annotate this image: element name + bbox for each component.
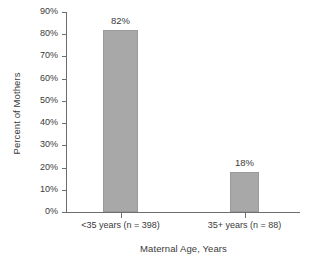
y-axis-tick [62, 145, 67, 146]
y-axis-tick-label: 20% [12, 162, 58, 172]
x-axis-tick [245, 213, 246, 218]
y-axis-tick-label: 0% [12, 206, 58, 216]
y-axis-tick-label: 90% [12, 6, 58, 16]
x-axis-tick-label: 35+ years (n = 88) [208, 220, 282, 230]
bar [103, 30, 138, 212]
x-axis-line [67, 212, 300, 213]
bar-value-label: 18% [235, 157, 254, 168]
y-axis-tick [62, 79, 67, 80]
y-axis-tick [62, 56, 67, 57]
bar [230, 172, 259, 212]
y-axis-line [66, 12, 67, 213]
y-axis-tick [62, 212, 67, 213]
y-axis-tick [62, 12, 67, 13]
y-axis-tick [62, 123, 67, 124]
y-axis-tick [62, 34, 67, 35]
y-axis-tick-label: 30% [12, 139, 58, 149]
y-axis-tick-label: 50% [12, 95, 58, 105]
x-axis-tick-label: <35 years (n = 398) [81, 220, 160, 230]
x-axis-title: Maternal Age, Years [67, 243, 300, 254]
y-axis-tick-label: 10% [12, 184, 58, 194]
y-axis-tick-label: 80% [12, 28, 58, 38]
y-axis-tick-label: 70% [12, 50, 58, 60]
bar-chart: Percent of Mothers 90%80%70%60%50%40%30%… [0, 0, 318, 263]
x-axis-tick [121, 213, 122, 218]
y-axis-tick-label: 60% [12, 73, 58, 83]
y-axis-tick [62, 168, 67, 169]
y-axis-tick-label: 40% [12, 117, 58, 127]
bar-value-label: 82% [111, 15, 130, 26]
y-axis-tick [62, 101, 67, 102]
y-axis-tick [62, 190, 67, 191]
